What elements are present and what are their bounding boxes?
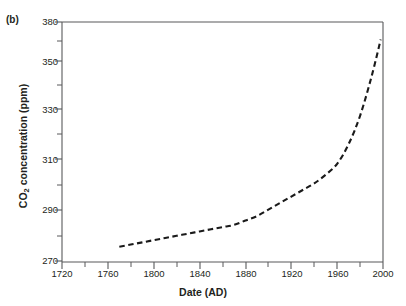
y-axis-minor-ticks (57, 41, 62, 236)
plot-svg (0, 0, 406, 306)
plot-frame (62, 22, 383, 262)
co2-concentration-curve (119, 39, 380, 246)
figure-panel-b: (b) CO2 concentration (ppm) Date (AD) 38… (0, 0, 406, 306)
y-axis-major-ticks (55, 22, 62, 261)
x-axis-minor-ticks (85, 262, 360, 267)
